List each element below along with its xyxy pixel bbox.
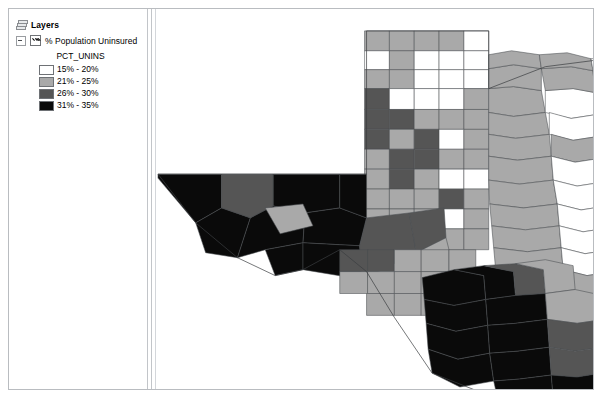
legend-item[interactable]: 15% - 20% [39, 64, 146, 75]
legend-swatch-2 [39, 77, 54, 87]
north-central-counties [489, 87, 593, 190]
toc-root-label: Layers [31, 20, 59, 30]
legend-swatch-3 [39, 89, 54, 99]
layer-name-label: % Population Uninsured [45, 36, 137, 46]
toc-root-node[interactable]: Layers [16, 18, 146, 31]
collapse-expander-icon[interactable] [16, 36, 26, 46]
legend-item[interactable]: 31% - 35% [39, 100, 146, 111]
south-texas-counties [422, 260, 593, 389]
legend-label-3: 26% - 30% [57, 89, 99, 98]
splitter-line-right [151, 9, 152, 389]
legend-label-4: 31% - 35% [57, 101, 99, 110]
legend-item[interactable]: 21% - 25% [39, 76, 146, 87]
map-document-frame: Layers % Population Uninsured PCT_UNINS … [8, 8, 594, 390]
legend-swatch-4 [39, 101, 54, 111]
legend-label-1: 15% - 20% [57, 65, 99, 74]
toc-layer-node[interactable]: % Population Uninsured [16, 34, 146, 47]
map-data-view[interactable] [155, 9, 593, 389]
legend-item[interactable]: 26% - 30% [39, 88, 146, 99]
layers-stack-icon [16, 20, 27, 30]
pane-splitter[interactable] [146, 9, 155, 389]
legend-swatch-1 [39, 65, 54, 75]
legend-label-2: 21% - 25% [57, 77, 99, 86]
table-of-contents-pane[interactable]: Layers % Population Uninsured PCT_UNINS … [9, 9, 146, 389]
splitter-line-left [147, 9, 148, 389]
texas-county-choropleth[interactable] [156, 9, 593, 389]
legend-classes: 15% - 20% 21% - 25% 26% - 30% 31% - 35% [9, 64, 146, 111]
legend-field-name: PCT_UNINS [9, 51, 146, 61]
layer-visibility-checkbox[interactable] [30, 35, 41, 46]
